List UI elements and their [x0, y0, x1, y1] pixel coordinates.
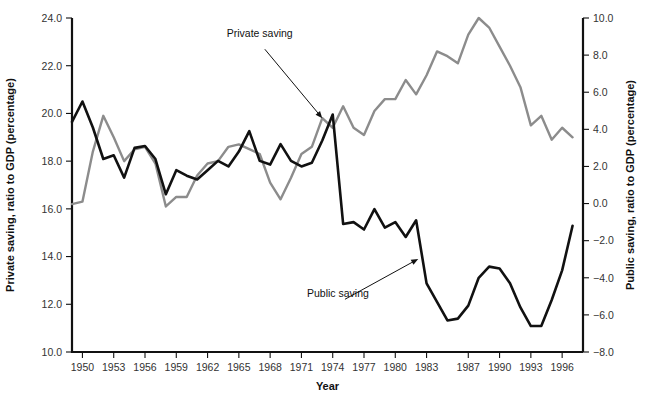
annotation-leader-private-saving — [265, 49, 319, 114]
right-axis-title: Public saving, ratio to GDP (percentage) — [624, 80, 636, 290]
chart-figure: 10.012.014.016.018.020.022.024.0−8.0−6.0… — [0, 0, 647, 400]
x-tick-label: 1996 — [550, 361, 574, 373]
left-axis-title: Private saving, ratio to GDP (percentage… — [4, 78, 16, 292]
x-tick-label: 1993 — [519, 361, 543, 373]
x-tick-label: 1965 — [227, 361, 251, 373]
y2-tick-label: 6.0 — [593, 86, 608, 98]
y2-tick-label: 4.0 — [593, 123, 608, 135]
y2-tick-label: 0.0 — [593, 197, 608, 209]
series-annotations: Private savingPublic saving — [227, 27, 418, 299]
x-tick-label: 1983 — [415, 361, 439, 373]
y-tick-label: 22.0 — [42, 60, 63, 72]
annotation-label-private-saving: Private saving — [227, 27, 293, 39]
line-chart: 10.012.014.016.018.020.022.024.0−8.0−6.0… — [0, 0, 647, 400]
bottom-axis-title: Year — [316, 380, 340, 392]
y-tick-label: 10.0 — [42, 346, 63, 358]
y2-tick-label: −6.0 — [593, 309, 614, 321]
x-tick-label: 1977 — [352, 361, 376, 373]
y2-tick-label: 2.0 — [593, 160, 608, 172]
annotation-label-public-saving: Public saving — [307, 287, 369, 299]
series-line-private-saving — [72, 18, 573, 206]
y-tick-label: 12.0 — [42, 298, 63, 310]
y-tick-label: 24.0 — [42, 12, 63, 24]
left-bottom-spine — [72, 18, 583, 352]
y2-tick-label: −2.0 — [593, 234, 614, 246]
x-tick-label: 1953 — [102, 361, 126, 373]
data-series — [72, 18, 573, 326]
x-tick-label: 1968 — [258, 361, 282, 373]
y-tick-label: 14.0 — [42, 250, 63, 262]
y-tick-label: 18.0 — [42, 155, 63, 167]
x-tick-label: 1959 — [165, 361, 189, 373]
y2-tick-label: 10.0 — [593, 12, 614, 24]
y2-tick-label: −8.0 — [593, 346, 614, 358]
y2-tick-label: 8.0 — [593, 49, 608, 61]
y2-tick-label: −4.0 — [593, 272, 614, 284]
y-tick-label: 20.0 — [42, 107, 63, 119]
annotation-leader-public-saving — [345, 261, 414, 299]
x-tick-label: 1956 — [133, 361, 157, 373]
x-tick-label: 1990 — [488, 361, 512, 373]
x-tick-label: 1980 — [384, 361, 408, 373]
x-tick-label: 1971 — [290, 361, 314, 373]
x-tick-label: 1962 — [196, 361, 220, 373]
y-tick-label: 16.0 — [42, 203, 63, 215]
x-tick-label: 1950 — [71, 361, 95, 373]
x-tick-label: 1987 — [457, 361, 481, 373]
axes — [72, 18, 583, 352]
x-tick-label: 1974 — [321, 361, 345, 373]
